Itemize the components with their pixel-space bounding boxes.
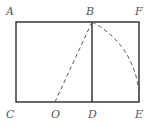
segment-OB-dashed (55, 22, 92, 102)
label-O: O (51, 108, 60, 121)
label-E: E (134, 108, 143, 121)
label-D: D (87, 108, 97, 121)
label-F: F (134, 5, 143, 18)
rectangle-ACEF (16, 22, 139, 102)
label-C: C (6, 108, 15, 121)
golden-rectangle-diagram: A B F C O D E (0, 0, 149, 127)
label-B: B (85, 5, 94, 18)
arc-BE-dashed (92, 22, 139, 100)
label-A: A (5, 5, 14, 18)
